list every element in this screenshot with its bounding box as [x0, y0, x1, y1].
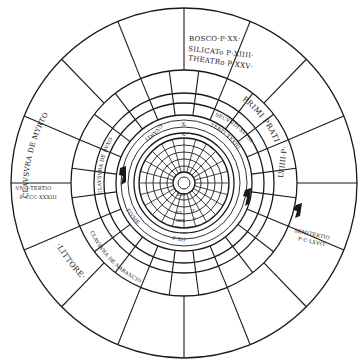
bridge-icon-left	[119, 166, 126, 185]
spoke-line	[94, 114, 130, 141]
hub-inner-ring	[178, 177, 190, 189]
inner-numeral-xxv: XXV	[177, 192, 186, 197]
inner-numeral-xx: XX	[176, 210, 182, 215]
inner-numeral-ii: II	[191, 208, 195, 213]
spoke-line	[225, 237, 252, 273]
inner-numeral-i: I	[194, 216, 196, 221]
label-clausura-de-narancio: CLAVSVRA DE·NARANCIO	[89, 230, 143, 284]
spoke-line	[227, 287, 250, 344]
spoke-line	[115, 93, 142, 129]
label-p-cccxxxiii: ·P·CCC·XXXIII	[18, 194, 57, 200]
label-x-lower: ·X·	[180, 131, 188, 137]
label-bosco: BOSCO·P·XX·	[189, 35, 241, 43]
outer-spokes	[11, 8, 357, 358]
spoke-line	[118, 21, 141, 78]
inner-grid-spokes	[139, 138, 229, 228]
spoke-line	[264, 59, 306, 103]
label-x-upper: ·X·	[180, 121, 188, 127]
label-clausura-de-buxo: CLAVSVRA DE BVXO	[96, 136, 114, 195]
spoke-line	[24, 226, 79, 250]
ring-113	[71, 70, 297, 296]
spoke-line	[264, 263, 306, 307]
label-lviiii: LVIIII·P·	[277, 146, 289, 179]
spoke-line	[62, 59, 104, 103]
label-p-xii: ·P·XII·	[170, 235, 187, 243]
spoke-line	[288, 116, 343, 140]
label-littore: ·LITTORE·	[54, 242, 87, 281]
middle-spokes	[72, 71, 296, 295]
bridge-icon-right	[243, 188, 251, 206]
spoke-line	[62, 263, 104, 307]
label-uno-tertio: ·VNO·TERTIO	[14, 185, 52, 191]
spoke-line	[118, 287, 141, 344]
hub-ring	[173, 172, 195, 194]
circular-garden-plan: BOSCO·P·XX· SILICATo P·XIIII· THEATRo P·…	[0, 0, 359, 360]
inner-numeral-xxx: XXX	[176, 218, 185, 223]
spoke-line	[238, 224, 274, 251]
